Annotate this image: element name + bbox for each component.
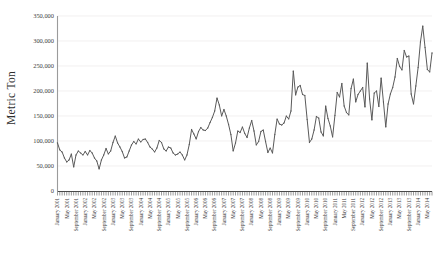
- x-axis-tick-label: September 2010: [322, 198, 328, 232]
- data-point-marker: [415, 85, 416, 86]
- data-point-marker: [244, 133, 245, 134]
- data-point-marker: [297, 86, 298, 87]
- data-point-marker: [193, 133, 194, 134]
- x-axis-tick-label: May 2006: [202, 198, 208, 219]
- data-point-marker: [156, 147, 157, 148]
- data-point-marker: [309, 142, 310, 143]
- data-point-marker: [346, 112, 347, 113]
- data-point-marker: [166, 150, 167, 151]
- data-point-marker: [307, 119, 308, 120]
- data-point-marker: [126, 156, 127, 157]
- data-point-marker: [163, 148, 164, 149]
- x-axis-tick-label: September 2002: [101, 198, 107, 232]
- data-point-marker: [82, 154, 83, 155]
- x-axis-tick-label: January 2013: [387, 198, 393, 226]
- data-point-marker: [334, 115, 335, 116]
- x-axis-tick-label: January 2006: [193, 198, 199, 226]
- data-point-marker: [364, 106, 365, 107]
- data-point-marker: [420, 41, 421, 42]
- data-point-marker: [348, 114, 349, 115]
- data-point-marker: [332, 136, 333, 137]
- data-point-marker: [203, 129, 204, 130]
- data-point-marker: [258, 141, 259, 142]
- data-point-marker: [323, 135, 324, 136]
- data-point-marker: [314, 129, 315, 130]
- data-point-marker: [214, 110, 215, 111]
- x-axis-tick-label: May 2012: [369, 198, 375, 219]
- data-point-marker: [142, 139, 143, 140]
- x-axis-tick-label: September 2001: [73, 198, 79, 232]
- x-axis-tick-label: September 2009: [295, 198, 301, 232]
- data-point-marker: [96, 160, 97, 161]
- data-point-marker: [357, 94, 358, 95]
- y-axis-tick-label: 150,000: [33, 112, 54, 119]
- data-point-marker: [221, 115, 222, 116]
- chart-container: Metric Ton 350,000300,000250,000200,0001…: [0, 0, 438, 261]
- data-series-line: [58, 26, 433, 169]
- x-axis-tick-label: January 2004: [138, 198, 144, 226]
- data-point-marker: [210, 122, 211, 123]
- data-point-marker: [138, 138, 139, 139]
- data-point-marker: [390, 93, 391, 94]
- data-point-marker: [161, 142, 162, 143]
- data-point-marker: [110, 150, 111, 151]
- x-axis-tickmarks-group: [58, 192, 433, 196]
- x-axis-tick-label: May 2011: [341, 198, 347, 219]
- x-axis-tick-label: January 2009: [276, 198, 282, 226]
- x-axis-tick-label: September 2004: [156, 198, 162, 232]
- x-axis-tick-label: May 2003: [119, 198, 125, 219]
- x-axis-tick-label: September 2003: [128, 198, 134, 232]
- x-axis-tick-label: May 2002: [91, 198, 97, 219]
- data-point-marker: [311, 138, 312, 139]
- x-axis-tick-label: September 2006: [211, 198, 217, 232]
- y-axis-tick-label: 350,000: [33, 12, 54, 19]
- data-point-marker: [388, 103, 389, 104]
- data-point-marker: [263, 129, 264, 130]
- data-point-marker: [198, 131, 199, 132]
- data-point-marker: [399, 66, 400, 67]
- data-point-marker: [92, 152, 93, 153]
- data-point-marker: [223, 109, 224, 110]
- data-point-marker: [87, 154, 88, 155]
- data-point-marker: [300, 85, 301, 86]
- y-axis-tick-label: 100,000: [33, 137, 54, 144]
- data-point-marker: [71, 153, 72, 154]
- x-axis-tick-label: January 2008: [248, 198, 254, 226]
- x-axis-tick-label: September 2012: [378, 198, 384, 232]
- data-point-marker: [286, 115, 287, 116]
- data-point-marker: [124, 157, 125, 158]
- data-point-marker: [351, 88, 352, 89]
- data-point-marker: [106, 148, 107, 149]
- data-point-marker: [115, 135, 116, 136]
- data-point-marker: [94, 157, 95, 158]
- data-point-marker: [73, 166, 74, 167]
- data-point-marker: [302, 94, 303, 95]
- data-point-marker: [293, 70, 294, 71]
- data-point-marker: [75, 154, 76, 155]
- data-point-marker: [133, 141, 134, 142]
- x-axis-tick-label: January 2002: [82, 198, 88, 226]
- data-point-marker: [233, 150, 234, 151]
- x-axis-tick-label: September 2011: [350, 198, 356, 232]
- y-axis-ticks-group: 350,000300,000250,000200,000150,000100,0…: [33, 12, 54, 194]
- data-point-marker: [362, 87, 363, 88]
- x-axis-tick-label: January 2003: [110, 198, 116, 226]
- data-point-marker: [353, 78, 354, 79]
- data-point-marker: [235, 142, 236, 143]
- x-axis-tick-label: May 2010: [313, 198, 319, 219]
- data-point-marker: [179, 151, 180, 152]
- data-point-marker: [288, 118, 289, 119]
- data-point-marker: [360, 90, 361, 91]
- data-point-marker: [129, 150, 130, 151]
- data-point-marker: [184, 159, 185, 160]
- data-point-marker: [320, 131, 321, 132]
- data-point-marker: [247, 137, 248, 138]
- data-point-marker: [240, 132, 241, 133]
- y-axis-tick-label: 200,000: [33, 87, 54, 94]
- data-point-marker: [371, 119, 372, 120]
- data-point-marker: [154, 151, 155, 152]
- data-point-marker: [207, 127, 208, 128]
- x-axis-tick-label: May 2001: [64, 198, 70, 219]
- data-point-marker: [381, 77, 382, 78]
- data-point-marker: [186, 154, 187, 155]
